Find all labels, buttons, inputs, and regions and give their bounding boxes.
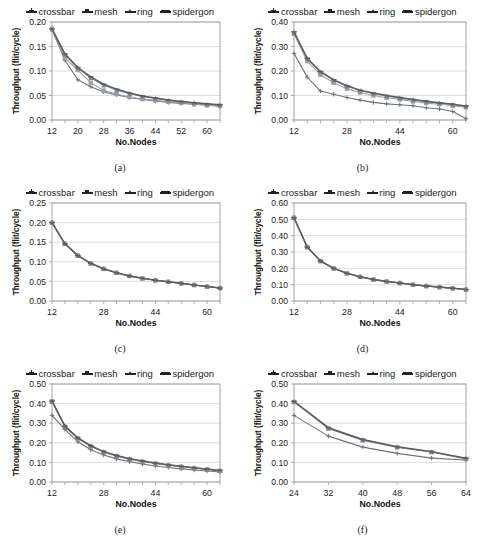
svg-text:0.60: 0.60 xyxy=(271,198,288,208)
svg-text:44: 44 xyxy=(150,488,160,498)
svg-text:28: 28 xyxy=(342,307,352,317)
svg-text:28: 28 xyxy=(98,126,108,136)
panel-d-inner: crossbar mesh ring spidergon 0.000.100.2… xyxy=(250,185,475,337)
svg-text:52: 52 xyxy=(176,126,186,136)
svg-text:0.50: 0.50 xyxy=(29,379,46,389)
chart-c: 0.000.050.100.150.200.2512284460No.Nodes… xyxy=(8,185,233,335)
svg-text:56: 56 xyxy=(427,488,437,498)
svg-text:0.40: 0.40 xyxy=(29,399,46,409)
svg-text:0.40: 0.40 xyxy=(271,231,288,241)
svg-text:0.30: 0.30 xyxy=(29,418,46,428)
svg-text:60: 60 xyxy=(448,126,458,136)
panel-d: crossbar mesh ring spidergon 0.000.100.2… xyxy=(240,181,485,362)
svg-text:0.25: 0.25 xyxy=(29,198,46,208)
figure-grid: crossbar mesh ring spidergon 0.000.050.1… xyxy=(0,0,485,544)
svg-text:0.00: 0.00 xyxy=(29,296,46,306)
svg-text:60: 60 xyxy=(448,307,458,317)
svg-text:44: 44 xyxy=(150,126,160,136)
svg-text:24: 24 xyxy=(289,488,299,498)
svg-text:Throughput (flit/cycle): Throughput (flit/cycle) xyxy=(12,209,21,296)
svg-text:Throughput (flit/cycle): Throughput (flit/cycle) xyxy=(254,28,263,115)
svg-text:0.00: 0.00 xyxy=(271,477,288,487)
svg-text:44: 44 xyxy=(395,126,405,136)
svg-text:No.Nodes: No.Nodes xyxy=(359,137,400,147)
svg-text:No.Nodes: No.Nodes xyxy=(115,499,156,509)
svg-text:Throughput (flit/cycle): Throughput (flit/cycle) xyxy=(12,390,21,477)
svg-text:12: 12 xyxy=(47,307,57,317)
svg-text:0.30: 0.30 xyxy=(271,42,288,52)
svg-text:0.00: 0.00 xyxy=(29,477,46,487)
svg-text:0.10: 0.10 xyxy=(271,458,288,468)
svg-text:0.20: 0.20 xyxy=(271,438,288,448)
svg-text:0.15: 0.15 xyxy=(29,42,46,52)
svg-text:Throughput (flit/cycle): Throughput (flit/cycle) xyxy=(254,390,263,477)
caption-d: (d) xyxy=(357,343,369,354)
svg-text:0.50: 0.50 xyxy=(271,215,288,225)
svg-text:28: 28 xyxy=(98,488,108,498)
svg-text:0.05: 0.05 xyxy=(29,277,46,287)
svg-text:0.00: 0.00 xyxy=(271,115,288,125)
svg-text:44: 44 xyxy=(395,307,405,317)
panel-c-inner: crossbar mesh ring spidergon 0.000.050.1… xyxy=(8,185,233,337)
svg-text:No.Nodes: No.Nodes xyxy=(359,499,400,509)
svg-text:44: 44 xyxy=(150,307,160,317)
svg-text:0.30: 0.30 xyxy=(271,247,288,257)
chart-a: 0.000.050.100.150.2012202836445260No.Nod… xyxy=(8,4,233,154)
panel-f-inner: crossbar mesh ring spidergon 0.000.100.2… xyxy=(250,366,475,518)
svg-text:32: 32 xyxy=(324,488,334,498)
panel-a: crossbar mesh ring spidergon 0.000.050.1… xyxy=(0,0,240,181)
svg-text:0.10: 0.10 xyxy=(271,280,288,290)
svg-text:0.00: 0.00 xyxy=(29,115,46,125)
svg-text:No.Nodes: No.Nodes xyxy=(359,318,400,328)
chart-d: 0.000.100.200.300.400.500.6012284460No.N… xyxy=(250,185,475,335)
svg-text:0.10: 0.10 xyxy=(271,91,288,101)
svg-text:0.10: 0.10 xyxy=(29,458,46,468)
caption-b: (b) xyxy=(357,162,369,173)
panel-e-inner: crossbar mesh ring spidergon 0.000.100.2… xyxy=(8,366,233,518)
panel-a-inner: crossbar mesh ring spidergon 0.000.050.1… xyxy=(8,4,233,156)
panel-b: crossbar mesh ring spidergon 0.000.100.2… xyxy=(240,0,485,181)
caption-e: (e) xyxy=(114,524,125,535)
svg-text:No.Nodes: No.Nodes xyxy=(115,318,156,328)
caption-c: (c) xyxy=(114,343,125,354)
svg-text:0.00: 0.00 xyxy=(271,296,288,306)
caption-f: (f) xyxy=(358,524,368,535)
chart-e: 0.000.100.200.300.400.5012284460No.Nodes… xyxy=(8,366,233,516)
svg-text:40: 40 xyxy=(358,488,368,498)
svg-text:0.10: 0.10 xyxy=(29,66,46,76)
caption-a: (a) xyxy=(114,162,125,173)
svg-text:28: 28 xyxy=(98,307,108,317)
panel-f: crossbar mesh ring spidergon 0.000.100.2… xyxy=(240,362,485,544)
panel-c: crossbar mesh ring spidergon 0.000.050.1… xyxy=(0,181,240,362)
panel-e: crossbar mesh ring spidergon 0.000.100.2… xyxy=(0,362,240,544)
svg-text:12: 12 xyxy=(47,126,57,136)
svg-text:0.20: 0.20 xyxy=(29,438,46,448)
svg-text:20: 20 xyxy=(72,126,82,136)
svg-text:0.40: 0.40 xyxy=(271,399,288,409)
svg-text:Throughput (flit/cycle): Throughput (flit/cycle) xyxy=(254,209,263,296)
svg-text:48: 48 xyxy=(392,488,402,498)
svg-text:No.Nodes: No.Nodes xyxy=(115,137,156,147)
svg-text:0.20: 0.20 xyxy=(271,66,288,76)
svg-text:36: 36 xyxy=(124,126,134,136)
svg-text:12: 12 xyxy=(289,307,299,317)
svg-text:0.10: 0.10 xyxy=(29,257,46,267)
svg-text:0.20: 0.20 xyxy=(29,17,46,27)
svg-text:0.05: 0.05 xyxy=(29,91,46,101)
svg-text:60: 60 xyxy=(202,307,212,317)
svg-text:28: 28 xyxy=(342,126,352,136)
svg-text:12: 12 xyxy=(47,488,57,498)
svg-text:Throughput (flit/cycle): Throughput (flit/cycle) xyxy=(12,28,21,115)
svg-text:0.20: 0.20 xyxy=(29,218,46,228)
panel-b-inner: crossbar mesh ring spidergon 0.000.100.2… xyxy=(250,4,475,156)
svg-text:60: 60 xyxy=(202,488,212,498)
svg-text:0.30: 0.30 xyxy=(271,418,288,428)
svg-text:0.50: 0.50 xyxy=(271,379,288,389)
svg-text:12: 12 xyxy=(289,126,299,136)
chart-b: 0.000.100.200.300.4012284460No.NodesThro… xyxy=(250,4,475,154)
svg-text:0.40: 0.40 xyxy=(271,17,288,27)
svg-text:60: 60 xyxy=(202,126,212,136)
svg-text:0.20: 0.20 xyxy=(271,264,288,274)
chart-f: 0.000.100.200.300.400.50243240485664No.N… xyxy=(250,366,475,516)
svg-text:0.15: 0.15 xyxy=(29,237,46,247)
